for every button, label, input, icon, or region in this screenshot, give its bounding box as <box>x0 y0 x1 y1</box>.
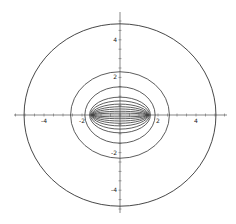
x-tick-label: -2 <box>79 117 85 124</box>
y-tick-label: 2 <box>113 73 117 80</box>
y-tick-label: 4 <box>113 36 117 43</box>
axes <box>14 12 227 213</box>
x-tick-label: -4 <box>41 117 47 124</box>
x-tick-label: 2 <box>156 117 160 124</box>
y-tick-label: -4 <box>111 186 117 193</box>
x-tick-label: 4 <box>194 117 198 124</box>
y-tick-label: -2 <box>111 149 117 156</box>
tick-labels: -4-22442-2-4 <box>41 36 198 193</box>
contour-plot: -4-22442-2-4 <box>0 0 236 224</box>
